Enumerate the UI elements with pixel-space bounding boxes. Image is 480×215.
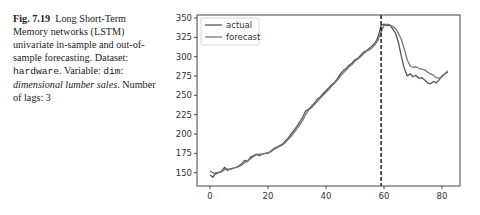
series-line-actual [210, 24, 448, 177]
series-line-forecast [210, 24, 448, 174]
y-tick-label: 200 [176, 129, 192, 139]
y-tick-label: 325 [176, 32, 192, 42]
y-tick-label: 350 [176, 13, 192, 23]
y-tick-label: 225 [176, 110, 192, 120]
y-tick-label: 250 [176, 90, 192, 100]
legend-label-forecast: forecast [226, 32, 261, 42]
plot-area: 020406080150175200225250275300325350actu… [176, 13, 460, 201]
x-tick-label: 0 [207, 191, 212, 201]
y-tick-label: 175 [176, 148, 192, 158]
y-tick-label: 300 [176, 52, 192, 62]
x-tick-label: 20 [263, 191, 274, 201]
legend: actualforecast [201, 18, 261, 45]
y-tick-label: 275 [176, 71, 192, 81]
y-tick-label: 150 [176, 168, 192, 178]
x-tick-label: 60 [379, 191, 390, 201]
x-tick-label: 40 [321, 191, 332, 201]
x-tick-label: 80 [437, 191, 448, 201]
line-chart: 020406080150175200225250275300325350actu… [0, 0, 480, 215]
legend-label-actual: actual [226, 20, 252, 30]
